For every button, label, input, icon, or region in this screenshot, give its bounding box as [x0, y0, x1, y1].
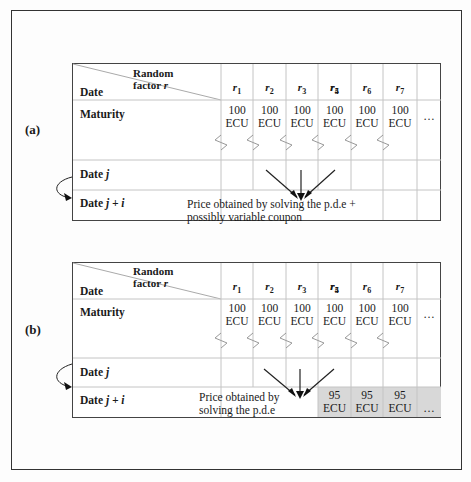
maturity-value: 100ECU: [221, 302, 253, 328]
factor-r3: r3: [286, 280, 318, 295]
row-label-maturity: Maturity: [80, 306, 125, 318]
factor-r7: r7: [383, 280, 417, 295]
date-j-prefix: Date: [80, 366, 103, 378]
maturity-value: 100ECU: [318, 302, 351, 328]
shaded-value: 95ECU: [351, 389, 383, 415]
date-ji-var: j + i: [106, 394, 125, 406]
factor-r6: r6: [351, 280, 383, 295]
factor-r2: r2: [253, 280, 286, 295]
corner-top-text: Random: [133, 265, 173, 277]
maturity-value: 100ECU: [286, 302, 318, 328]
maturity-value: …: [417, 302, 441, 321]
date-ji-prefix: Date: [80, 394, 103, 406]
shaded-value: 95ECU: [318, 389, 351, 415]
corner-header-date: Date: [80, 285, 103, 297]
maturity-value: 100ECU: [351, 302, 383, 328]
shaded-value: 95ECU: [383, 389, 417, 415]
maturity-value: 100ECU: [383, 302, 417, 328]
corner-header-random-factor: Random factor r: [133, 265, 173, 289]
row-label-date-j-plus-i: Date j + i: [80, 394, 125, 406]
shaded-value: …: [417, 396, 441, 415]
date-j-var: j: [106, 366, 109, 378]
note-line2: solving the p.d.e: [199, 404, 275, 416]
corner-var: r: [164, 277, 168, 289]
row-label-date-j: Date j: [80, 366, 109, 378]
factor-r1: r1: [221, 280, 253, 295]
corner-top2-text: factor: [133, 277, 161, 289]
factor-r5: r5: [318, 280, 351, 295]
maturity-value: 100ECU: [253, 302, 286, 328]
note-line1: Price obtained by: [199, 391, 279, 403]
pde-note: Price obtained by solving the p.d.e: [199, 391, 319, 417]
